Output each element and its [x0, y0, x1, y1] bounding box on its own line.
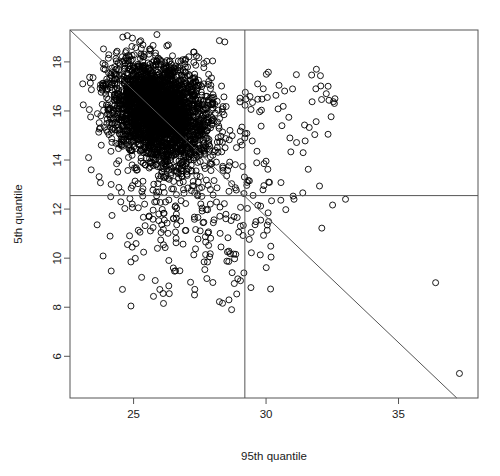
x-axis-tick-label: 30 [260, 408, 273, 420]
data-point [287, 135, 293, 141]
data-point [293, 72, 299, 78]
x-axis-ticks: 253035 [127, 398, 405, 420]
data-point [94, 222, 100, 228]
data-point [224, 173, 230, 179]
data-point [254, 160, 260, 166]
data-point [150, 207, 156, 213]
data-point [210, 58, 216, 64]
data-point [158, 237, 164, 243]
data-point [268, 286, 274, 292]
data-point [223, 216, 229, 222]
data-point [174, 222, 180, 228]
data-point [154, 32, 160, 38]
data-point [263, 265, 269, 271]
data-point [229, 307, 235, 313]
data-point [268, 254, 274, 260]
data-point [165, 230, 171, 236]
data-point [138, 45, 144, 51]
data-point [255, 81, 261, 87]
data-point [313, 66, 319, 72]
data-point [107, 233, 113, 239]
y-axis-tick-label: 12 [51, 203, 63, 216]
data-point [219, 149, 225, 155]
data-point [140, 214, 146, 220]
data-point [261, 232, 267, 238]
data-point [142, 201, 148, 207]
data-points-layer [80, 32, 463, 377]
data-point [100, 46, 106, 52]
data-point [192, 292, 198, 298]
data-point [248, 106, 254, 112]
data-point [309, 99, 315, 105]
data-point [210, 280, 216, 286]
data-point [173, 192, 179, 198]
data-point [152, 278, 158, 284]
data-point [278, 197, 284, 203]
data-point [312, 132, 318, 138]
data-point [330, 202, 336, 208]
diagonal-boundary-line [70, 30, 457, 398]
data-point [156, 218, 162, 224]
data-point [80, 81, 86, 87]
data-point [108, 181, 114, 187]
data-point [254, 148, 260, 154]
data-point [323, 91, 329, 97]
data-point [246, 236, 252, 242]
data-point [260, 187, 266, 193]
data-point [300, 190, 306, 196]
y-axis-ticks: 681012141618 [51, 55, 70, 359]
data-point [219, 83, 225, 89]
data-point [142, 223, 148, 229]
data-point [129, 43, 135, 49]
data-point [210, 192, 216, 198]
data-point [178, 218, 184, 224]
data-point [125, 168, 131, 174]
data-point [227, 159, 233, 165]
data-point [269, 198, 275, 204]
y-axis-title: 5th quantile [12, 184, 24, 243]
data-point [268, 243, 274, 249]
scatter-plot-figure: 681012141618 253035 95th quantile 5th qu… [0, 0, 500, 476]
data-point [203, 177, 209, 183]
data-point [122, 206, 128, 212]
data-point [97, 180, 103, 186]
data-point [260, 86, 266, 92]
data-point [325, 131, 331, 137]
data-point [223, 136, 229, 142]
data-point [265, 210, 271, 216]
data-point [183, 201, 189, 207]
y-axis-tick-label: 16 [51, 105, 63, 118]
data-point [241, 270, 247, 276]
data-point [154, 245, 160, 251]
data-point [325, 83, 331, 89]
data-point [88, 87, 94, 93]
data-point [150, 293, 156, 299]
data-point [105, 55, 111, 61]
y-axis-tick-label: 18 [51, 55, 63, 68]
data-point [283, 207, 289, 213]
data-point [198, 201, 204, 207]
data-point [258, 107, 264, 113]
data-point [279, 123, 285, 129]
data-point [166, 291, 172, 297]
data-point [157, 286, 163, 292]
y-axis-tick-label: 10 [51, 252, 63, 265]
data-point [133, 45, 139, 51]
x-axis-tick-label: 35 [392, 408, 405, 420]
data-point [276, 82, 282, 88]
data-point [108, 148, 114, 154]
data-point [288, 149, 294, 155]
data-point [128, 303, 134, 309]
data-point [139, 274, 145, 280]
data-point [226, 188, 232, 194]
data-point [217, 213, 223, 219]
data-point [173, 235, 179, 241]
data-point [258, 123, 264, 129]
data-point [191, 252, 197, 258]
data-point [98, 142, 104, 148]
data-point [306, 124, 312, 130]
data-point [343, 196, 349, 202]
data-point [160, 290, 166, 296]
data-point [236, 229, 242, 235]
data-point [257, 109, 263, 115]
